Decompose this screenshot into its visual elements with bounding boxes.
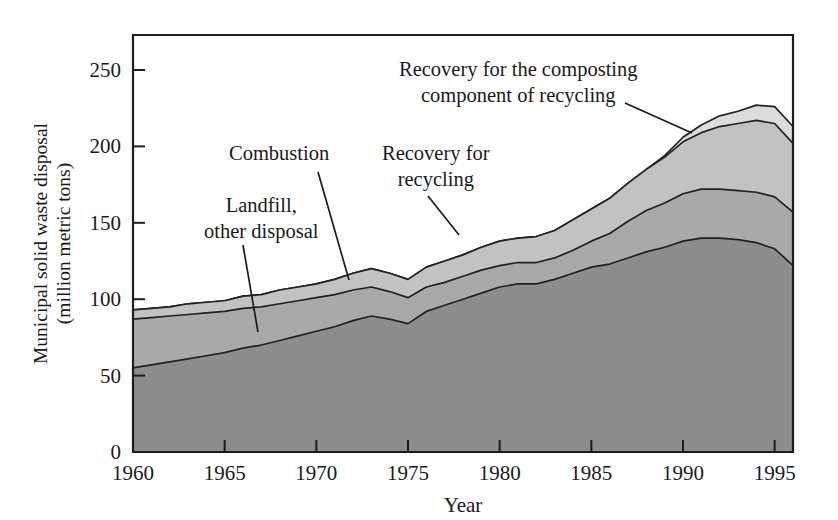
y-axis-title-line1: Municipal solid waste disposal xyxy=(30,122,51,364)
y-axis-title: Municipal solid waste disposal (million … xyxy=(30,122,75,364)
annotation-label-landfill-line1: Landfill, xyxy=(226,194,297,216)
y-tick-label-150: 150 xyxy=(90,211,122,235)
stacked-area-chart: 19601965197019751980198519901995 0501001… xyxy=(0,0,838,520)
annotation-label-recycling-line2: recycling xyxy=(398,168,474,191)
x-tick-label-1995: 1995 xyxy=(754,461,796,485)
y-tick-label-100: 100 xyxy=(90,287,122,311)
annotation-leader-combustion xyxy=(318,172,349,280)
x-tick-label-1990: 1990 xyxy=(662,461,704,485)
y-tick-labels-group: 050100150200250 xyxy=(90,58,122,464)
annotation-leader-composting xyxy=(625,103,692,133)
y-tick-label-250: 250 xyxy=(90,58,122,82)
annotation-label-landfill-line2: other disposal xyxy=(204,220,319,243)
y-axis-title-line2: (million metric tons) xyxy=(53,163,75,324)
annotation-recycling: Recovery forrecycling xyxy=(382,142,490,235)
annotation-label-composting-line1: Recovery for the composting xyxy=(399,58,638,81)
x-tick-labels-group: 19601965197019751980198519901995 xyxy=(112,461,796,485)
y-tick-label-200: 200 xyxy=(90,134,122,158)
annotation-leader-recycling xyxy=(428,196,459,235)
annotation-composting: Recovery for the compostingcomponent of … xyxy=(399,58,692,133)
y-tick-label-0: 0 xyxy=(111,440,122,464)
y-tick-label-50: 50 xyxy=(100,364,121,388)
x-tick-label-1965: 1965 xyxy=(204,461,246,485)
annotation-label-composting-line2: component of recycling xyxy=(421,84,616,107)
x-tick-label-1960: 1960 xyxy=(112,461,154,485)
x-tick-label-1985: 1985 xyxy=(570,461,612,485)
annotation-label-combustion-line1: Combustion xyxy=(229,142,329,164)
chart-figure: 19601965197019751980198519901995 0501001… xyxy=(0,0,838,520)
x-tick-label-1970: 1970 xyxy=(295,461,337,485)
x-tick-label-1975: 1975 xyxy=(387,461,429,485)
x-tick-label-1980: 1980 xyxy=(479,461,521,485)
annotation-label-recycling-line1: Recovery for xyxy=(382,142,490,165)
x-axis-title: Year xyxy=(444,493,483,517)
